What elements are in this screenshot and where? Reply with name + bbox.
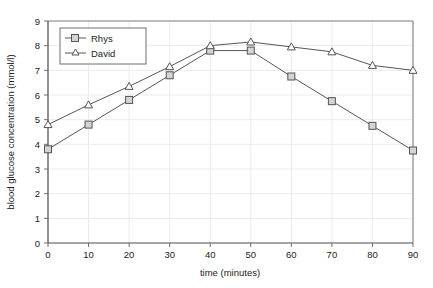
data-point-square <box>247 47 254 54</box>
y-axis-tick-label: 7 <box>35 65 40 76</box>
data-point-square <box>410 147 417 154</box>
y-axis-tick-label: 9 <box>35 16 40 27</box>
data-point-square <box>126 96 133 103</box>
data-point-square <box>288 73 295 80</box>
y-axis-title: blood glucose concentration (mmol/l) <box>5 54 16 209</box>
data-point-square <box>85 121 92 128</box>
x-axis-tick-label: 70 <box>327 249 338 260</box>
y-axis-tick-label: 2 <box>35 188 40 199</box>
x-axis-tick-label: 60 <box>286 249 297 260</box>
x-axis-title: time (minutes) <box>200 267 260 278</box>
y-axis-tick-label: 3 <box>35 164 40 175</box>
y-axis-tick-label: 1 <box>35 213 40 224</box>
x-axis-tick-label: 20 <box>124 249 135 260</box>
y-axis-tick-label: 6 <box>35 90 40 101</box>
y-axis-tick-label: 5 <box>35 114 40 125</box>
y-axis-tick-label: 8 <box>35 40 40 51</box>
y-axis-tick-label: 4 <box>35 139 40 150</box>
data-point-square <box>328 98 335 105</box>
legend-label-david: David <box>91 48 115 59</box>
square-marker-icon <box>72 35 79 42</box>
x-axis-tick-label: 80 <box>367 249 378 260</box>
x-axis-tick-label: 90 <box>408 249 419 260</box>
x-axis-tick-label: 50 <box>245 249 256 260</box>
data-point-square <box>45 146 52 153</box>
line-chart: 01020304050607080900123456789 time (minu… <box>0 0 433 288</box>
data-point-square <box>369 122 376 129</box>
chart-container: 01020304050607080900123456789 time (minu… <box>0 0 433 288</box>
legend[interactable]: Rhys David <box>60 28 146 64</box>
x-axis-tick-label: 0 <box>45 249 50 260</box>
y-axis-tick-label: 0 <box>35 238 40 249</box>
x-axis-tick-label: 40 <box>205 249 216 260</box>
legend-label-rhys: Rhys <box>91 33 113 44</box>
x-axis-tick-label: 30 <box>164 249 175 260</box>
x-axis-tick-label: 10 <box>83 249 94 260</box>
data-point-square <box>166 72 173 79</box>
